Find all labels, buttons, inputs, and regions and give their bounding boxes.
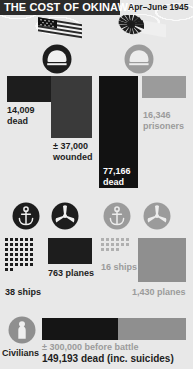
- label-us-planes: 763 planes: [48, 268, 94, 279]
- bar-us-wounded: [51, 76, 92, 138]
- label-civilians-dead: 149,193 dead (inc. suicides): [42, 354, 174, 365]
- bar-japan-planes: [138, 238, 186, 282]
- japan-helmet-icon: [124, 44, 154, 74]
- us-flag-icon: [36, 17, 86, 39]
- label-japan-dead-text: dead: [103, 177, 124, 188]
- label-us-ships: 38 ships: [5, 287, 41, 298]
- label-japan-ships: 16 ships: [101, 262, 137, 273]
- japan-ships-dotgrid: [101, 238, 133, 253]
- label-us-wounded-value: ± 37,000: [53, 141, 88, 152]
- bar-japan-prisoners: [142, 76, 186, 98]
- us-anchor-icon: [12, 202, 40, 230]
- civilian-person-icon: [8, 316, 36, 344]
- header: THE COST OF OKINAWA Apr–June 1945: [0, 0, 193, 15]
- label-japan-dead-value: 77,166: [103, 166, 131, 177]
- japan-anchor-icon: [103, 202, 131, 230]
- us-ships-dotgrid: [5, 238, 37, 273]
- japan-propeller-icon: [143, 202, 171, 230]
- infographic-root: THE COST OF OKINAWA Apr–June 1945: [0, 0, 193, 369]
- label-japan-prisoners-text: prisoners: [143, 121, 184, 132]
- label-japan-prisoners-value: 16,346: [143, 110, 171, 121]
- label-us-wounded-text: wounded: [53, 152, 93, 163]
- us-propeller-icon: [51, 202, 79, 230]
- label-us-dead-text: dead: [7, 116, 28, 127]
- page-title: THE COST OF OKINAWA: [4, 1, 135, 14]
- bar-us-dead: [7, 76, 51, 102]
- label-us-dead-value: 14,009: [7, 105, 35, 116]
- label-civilians: Civilians: [2, 348, 39, 359]
- bar-us-planes: [48, 238, 92, 264]
- date-range: Apr–June 1945: [128, 2, 188, 13]
- us-helmet-icon: [42, 44, 72, 74]
- label-japan-planes: 1,430 planes: [132, 287, 186, 298]
- japan-rising-sun-flag-icon: [118, 15, 170, 39]
- bar-civilians-dead: [42, 318, 118, 340]
- bar-civilians-before: [118, 318, 186, 340]
- label-civilians-before: ± 300,000 before battle: [42, 342, 138, 353]
